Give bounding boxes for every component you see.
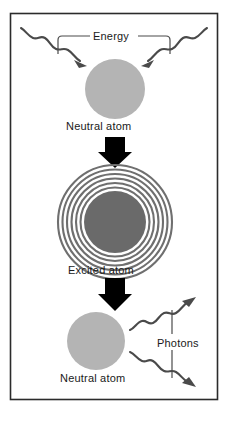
figure-canvas [0,0,235,424]
excited-atom-label: Excited atom [68,264,134,276]
excited-atom-core [84,191,146,253]
figure-root: Energy Neutral atom Excited atom Neutral… [0,0,235,424]
neutral-atom-top-label: Neutral atom [66,120,131,132]
photons-label: Photons [157,337,199,349]
neutral-atom-top-circle [85,59,145,119]
neutral-atom-bottom-circle [67,312,125,370]
energy-label: Energy [93,30,129,42]
neutral-atom-bottom-label: Neutral atom [60,372,125,384]
